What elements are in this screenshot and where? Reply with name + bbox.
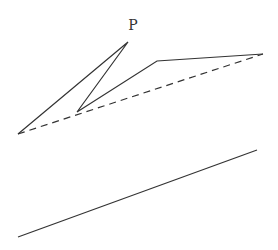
solid-polyline (18, 42, 263, 134)
label-p: P (128, 17, 137, 33)
dashed-baseline (18, 54, 263, 134)
diagram-canvas: P (0, 0, 278, 250)
bottom-line (18, 150, 257, 237)
